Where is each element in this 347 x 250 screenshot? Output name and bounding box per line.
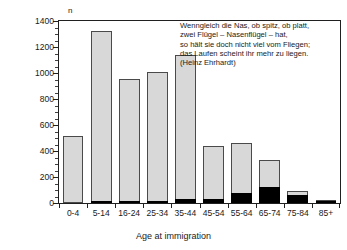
x-tick-label: 16-24 [115, 208, 143, 219]
annotation-line: so hält sie doch nicht viel vom Fliegen; [180, 40, 344, 49]
bar-subgroup [316, 201, 337, 203]
x-tick-label: 85+ [312, 208, 340, 219]
x-tick-label: 25-34 [143, 208, 171, 219]
bar-group [63, 21, 84, 203]
bar-subgroup [203, 199, 224, 203]
y-tick-label: 1400 [0, 17, 54, 26]
bar-subgroup [175, 199, 196, 203]
y-major-tick [53, 47, 58, 48]
y-minor-tick [55, 93, 58, 94]
x-tick-label: 55-64 [228, 208, 256, 219]
y-axis-unit-label: n [68, 6, 72, 15]
annotation-line: zwei Flügel – Nasenflügel – hat, [180, 30, 344, 39]
y-minor-tick [55, 54, 58, 55]
x-tick-label: 5-14 [87, 208, 115, 219]
x-tick-label: 65-74 [256, 208, 284, 219]
bar-subgroup [147, 201, 168, 203]
bar-chart: n 0200400600800100012001400 0-45-1416-24… [0, 0, 347, 250]
y-minor-tick [55, 60, 58, 61]
bar-subgroup [287, 195, 308, 203]
bar-subgroup [259, 187, 280, 203]
bar-group [91, 21, 112, 203]
y-minor-tick [55, 28, 58, 29]
bar-subgroup [231, 193, 252, 203]
y-major-tick [53, 73, 58, 74]
bar-subgroup [91, 201, 112, 203]
y-minor-tick [55, 171, 58, 172]
y-minor-tick [55, 190, 58, 191]
y-minor-tick [55, 132, 58, 133]
y-minor-tick [55, 119, 58, 120]
x-axis-tick-labels: 0-45-1416-2425-3435-4445-5455-6465-7475-… [59, 208, 340, 222]
bar-total [63, 136, 84, 203]
y-minor-tick [55, 106, 58, 107]
y-minor-tick [55, 67, 58, 68]
y-tick-label: 1200 [0, 43, 54, 52]
y-major-tick [53, 125, 58, 126]
y-tick-label: 1000 [0, 69, 54, 78]
y-tick-label: 200 [0, 173, 54, 182]
annotation-text-block: Wenngleich die Nas, ob spitz, ob platt,z… [180, 21, 344, 67]
y-major-tick [53, 203, 58, 204]
annotation-line: Wenngleich die Nas, ob spitz, ob platt, [180, 21, 344, 30]
y-major-tick [53, 99, 58, 100]
y-minor-tick [55, 184, 58, 185]
y-minor-tick [55, 112, 58, 113]
y-tick-label: 800 [0, 95, 54, 104]
y-tick-label: 0 [0, 199, 54, 208]
x-tick-label: 35-44 [171, 208, 199, 219]
y-axis-tick-labels: 0200400600800100012001400 [0, 0, 54, 250]
y-minor-tick [55, 158, 58, 159]
annotation-line: (Heinz Ehrhardt) [180, 58, 344, 67]
y-major-tick [53, 177, 58, 178]
y-minor-tick [55, 145, 58, 146]
y-major-tick [53, 21, 58, 22]
bar-total [203, 146, 224, 203]
annotation-line: das Laufen scheint ihr mehr zu liegen. [180, 49, 344, 58]
y-minor-tick [55, 197, 58, 198]
bar-total [175, 55, 196, 203]
y-minor-tick [55, 80, 58, 81]
x-tick-label: 0-4 [59, 208, 87, 219]
y-minor-tick [55, 164, 58, 165]
bar-total [147, 72, 168, 203]
y-minor-tick [55, 138, 58, 139]
bar-total [119, 79, 140, 203]
x-tick-label: 75-84 [284, 208, 312, 219]
x-axis-title: Age at immigration [0, 231, 347, 242]
y-minor-tick [55, 41, 58, 42]
y-minor-tick [55, 86, 58, 87]
y-minor-tick [55, 34, 58, 35]
x-tick-label: 45-54 [200, 208, 228, 219]
bar-total [91, 31, 112, 203]
y-tick-label: 600 [0, 121, 54, 130]
y-major-tick [53, 151, 58, 152]
bar-subgroup [119, 201, 140, 203]
bar-group [119, 21, 140, 203]
bar-group [147, 21, 168, 203]
y-tick-label: 400 [0, 147, 54, 156]
